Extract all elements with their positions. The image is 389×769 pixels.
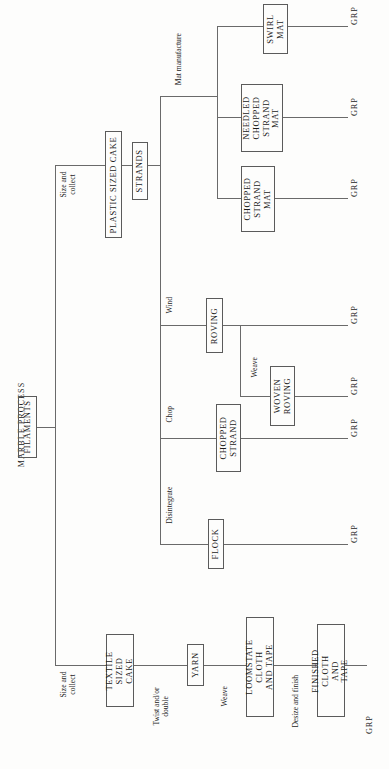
node-strands-label: STRANDS (135, 150, 145, 193)
node-strands: STRANDS (132, 142, 148, 200)
output-grp-flock: GRP (350, 512, 359, 556)
process-size-collect-plastic-line1: Size and collect (60, 155, 77, 215)
node-swirl-mat-label: SWIRL MAT (266, 14, 286, 43)
edge-mat-fan-bar (217, 26, 218, 198)
process-chop: Chop (166, 386, 175, 442)
edge-strands-distribution-bar (160, 96, 161, 544)
edge-finished-cloth-to-grp (345, 665, 367, 666)
node-filaments: FILAMENTS (18, 396, 37, 458)
output-grp-woven-roving: GRP (350, 364, 359, 408)
edge-disintegrate (160, 544, 208, 545)
node-plastic-sized-cake-label: PLASTIC SIZED CAKE (109, 136, 119, 233)
edge-to-swirl-mat (217, 26, 263, 27)
edge-to-plastic-cake (55, 165, 105, 166)
node-filaments-label: FILAMENTS (23, 400, 33, 453)
process-desize-finish: Desize and finish (292, 667, 301, 735)
edge-chopped-strand-to-grp (241, 438, 348, 439)
edge-chopped-strand-mat-to-grp (275, 198, 348, 199)
edge-mat-manufacture (160, 96, 217, 97)
output-grp-needled-mat: GRP (350, 85, 359, 129)
node-loomstate-cloth-and-tape-label: LOOMSTATE CLOTH AND TAPE (245, 639, 274, 694)
node-chopped-strand-label: CHOPPED STRAND (219, 417, 239, 460)
node-chopped-strand: CHOPPED STRAND (216, 404, 241, 472)
node-needled-chopped-strand-mat-label: NEEDLED CHOPPED STRAND MAT (242, 96, 281, 139)
edge-plastic-to-strands (122, 165, 132, 166)
node-chopped-strand-mat: CHOPPED STRAND MAT (241, 166, 275, 232)
process-size-collect-textile: Size and collect (60, 655, 77, 715)
output-grp-finished-cloth: GRP (365, 703, 374, 747)
node-flock-label: FLOCK (211, 529, 221, 560)
edge-swirl-mat-to-grp (288, 26, 348, 27)
edge-weave-roving (240, 396, 270, 397)
output-grp-roving: GRP (350, 293, 359, 337)
node-finished-cloth-and-tape-label: FINISHED CLOTH AND TAPE (311, 649, 350, 693)
edge-roving-out (223, 325, 348, 326)
node-swirl-mat: SWIRL MAT (263, 4, 288, 54)
node-yarn-label: YARN (191, 652, 201, 678)
node-textile-sized-cake: TEXTILE SIZED CAKE (106, 634, 134, 707)
edge-woven-roving-to-grp (295, 396, 348, 397)
process-disintegrate: Disintegrate (166, 461, 175, 549)
edge-chop (160, 438, 216, 439)
edge-to-textile-cake (55, 665, 106, 666)
output-grp-chopped-strand: GRP (350, 406, 359, 450)
node-needled-chopped-strand-mat: NEEDLED CHOPPED STRAND MAT (241, 84, 283, 152)
edge-weave-cloth (204, 665, 246, 666)
node-yarn: YARN (187, 644, 204, 686)
node-woven-roving-label: WOVEN ROVING (273, 378, 293, 415)
node-finished-cloth-and-tape: FINISHED CLOTH AND TAPE (317, 624, 345, 717)
node-loomstate-cloth-and-tape: LOOMSTATE CLOTH AND TAPE (246, 617, 274, 717)
edge-to-chopped-strand-mat (217, 198, 241, 199)
node-flock: FLOCK (208, 519, 224, 569)
node-plastic-sized-cake: PLASTIC SIZED CAKE (105, 131, 122, 238)
node-roving-label: ROVING (210, 307, 220, 344)
edge-needled-chopped-mat-to-grp (283, 117, 348, 118)
output-grp-swirl-mat: GRP (350, 0, 359, 38)
node-roving: ROVING (206, 298, 223, 353)
edge-strands-out (148, 165, 160, 166)
node-woven-roving: WOVEN ROVING (270, 366, 295, 426)
process-wind: Wind (166, 280, 175, 330)
process-mat-manufacture: Mat manufacture (175, 8, 184, 110)
edge-root-split (55, 165, 56, 665)
edge-filaments-stem (37, 427, 55, 428)
edge-wind (160, 325, 206, 326)
node-chopped-strand-mat-label: CHOPPED STRAND MAT (243, 178, 272, 221)
process-twist-double: Twist and/or double (153, 676, 170, 738)
output-grp-chopped-mat: GRP (350, 166, 359, 210)
edge-flock-to-grp (224, 544, 348, 545)
flowchart-canvas: MARBLE PROCESS FILAMENTS Size and collec… (0, 0, 389, 769)
process-weave-roving: Weave (251, 346, 260, 388)
process-weave-cloth: Weave (221, 675, 230, 717)
edge-roving-weave-split (240, 325, 241, 396)
edge-twist-double (134, 665, 187, 666)
edge-to-needled-chopped-mat (217, 117, 241, 118)
process-size-collect-plastic: Size and collect (60, 155, 77, 215)
node-textile-sized-cake-label: TEXTILE SIZED CAKE (105, 651, 134, 690)
